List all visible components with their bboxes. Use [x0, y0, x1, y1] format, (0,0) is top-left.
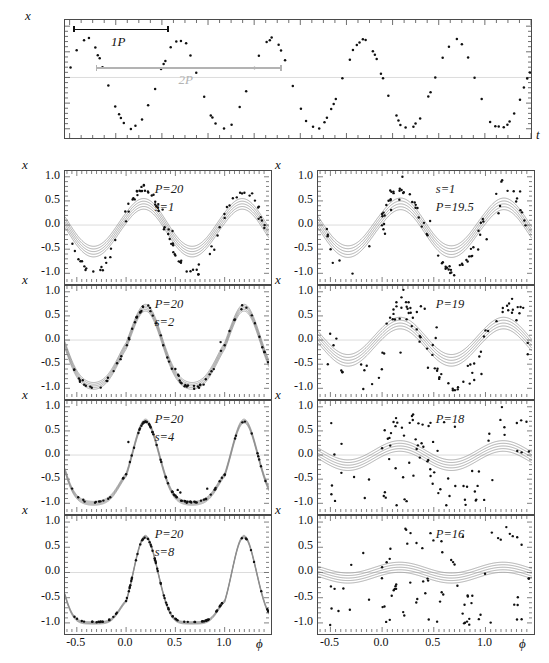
panel-ytick-label: 0.0: [22, 331, 60, 346]
panel-ylabel: x: [275, 157, 281, 173]
panel-ytick-label: 0.5: [275, 422, 313, 437]
panel-ytick-label: 0.5: [22, 307, 60, 322]
panel-plotbox: [317, 170, 535, 285]
panel-ylabel: x: [275, 502, 281, 518]
panel-xtick-label: 0.0: [105, 635, 145, 650]
panel-ytick-label: -1.0: [22, 379, 60, 394]
panel-xlabel: ϕ: [519, 636, 526, 652]
panel-plotbox: [317, 515, 535, 635]
panel-ylabel: x: [275, 272, 281, 288]
panel-ytick-label: 0.0: [275, 446, 313, 461]
panel-canvas: [65, 516, 269, 632]
panel-ytick-label: -0.5: [275, 240, 313, 255]
legend-bar-1P: [74, 29, 168, 30]
panel-ytick-label: 0.0: [275, 216, 313, 231]
panel-canvas: [318, 516, 532, 632]
legend-bar-cap: [96, 65, 97, 71]
legend-label-1P: 1P: [111, 34, 125, 50]
panel-ylabel: x: [22, 157, 28, 173]
panel-ytick-label: -0.5: [22, 470, 60, 485]
legend-bar-cap: [167, 26, 168, 32]
panel-annotation: P=19: [436, 297, 465, 312]
panel-ytick-label: 1.0: [275, 398, 313, 413]
panel-plotbox: [317, 285, 535, 400]
panel-ytick-label: 0.0: [22, 446, 60, 461]
panel-ylabel: x: [22, 272, 28, 288]
top-panel: x t 1P2P: [0, 0, 549, 150]
panel-ytick-label: 0.5: [22, 192, 60, 207]
panel-ytick-label: -1.0: [275, 494, 313, 509]
panel-xtick-label: 1.0: [204, 635, 244, 650]
panel-ytick-label: 0.5: [275, 192, 313, 207]
panel-ytick-label: -0.5: [22, 355, 60, 370]
panel-ytick-label: -0.5: [22, 240, 60, 255]
panel-ylabel: x: [22, 502, 28, 518]
panel-ytick-label: 1.0: [275, 513, 313, 528]
figure-root: x t 1P2P x1.00.50.0-0.5-1.0P=20s=1x1.00.…: [0, 0, 549, 663]
panel-ytick-label: 0.5: [22, 422, 60, 437]
panel-ytick-label: 1.0: [22, 398, 60, 413]
panel-xtick-label: 0.5: [413, 635, 453, 650]
panel-ylabel: x: [22, 387, 28, 403]
panel-ylabel: x: [275, 387, 281, 403]
panel-plotbox: [317, 400, 535, 515]
legend-label-2P: 2P: [179, 72, 193, 88]
panel-ytick-label: -0.5: [275, 355, 313, 370]
panel-plotbox: [64, 285, 272, 400]
panel-annotation: P=16: [436, 527, 465, 542]
panel-ytick-label: 1.0: [275, 168, 313, 183]
panel-annotation: P=19.5: [436, 200, 474, 215]
panel-annotation: s=1: [155, 200, 175, 215]
legend-bar-cap: [73, 26, 74, 32]
panel-canvas: [318, 171, 532, 282]
panel-xtick-label: 0.5: [154, 635, 194, 650]
panel-xtick-label: 0.0: [361, 635, 401, 650]
panel-plotbox: [64, 400, 272, 515]
panel-canvas: [65, 171, 269, 282]
panel-ytick-label: 1.0: [275, 283, 313, 298]
panel-canvas: [318, 286, 532, 397]
panel-ytick-label: -1.0: [275, 264, 313, 279]
panel-annotation: s=2: [155, 315, 175, 330]
panel-canvas: [318, 401, 532, 512]
panel-ytick-label: 1.0: [22, 168, 60, 183]
panel-ytick-label: 0.0: [275, 563, 313, 578]
panel-canvas: [65, 286, 269, 397]
top-panel-ylabel: x: [25, 8, 31, 24]
panel-annotation: P=20: [155, 297, 184, 312]
panel-xtick-label: -0.5: [309, 635, 349, 650]
panel-annotation: P=20: [155, 182, 184, 197]
panel-canvas: [65, 401, 269, 512]
panel-ytick-label: -0.5: [275, 589, 313, 604]
panel-xtick-label: 1.0: [464, 635, 504, 650]
panel-annotation: s=1: [436, 182, 456, 197]
panel-ytick-label: -1.0: [22, 494, 60, 509]
panel-ytick-label: -1.0: [22, 614, 60, 629]
panel-plotbox: [64, 515, 272, 635]
panel-ytick-label: 0.0: [275, 331, 313, 346]
legend-bar-2P: [96, 67, 281, 68]
panel-annotation: s=8: [155, 545, 175, 560]
panel-ytick-label: 0.5: [275, 538, 313, 553]
panel-xtick-label: -0.5: [56, 635, 96, 650]
panel-ytick-label: 0.0: [22, 216, 60, 231]
panel-ytick-label: 0.0: [22, 563, 60, 578]
panel-ytick-label: -0.5: [22, 589, 60, 604]
panel-annotation: P=18: [436, 412, 465, 427]
top-panel-xlabel: t: [536, 127, 540, 143]
panel-ytick-label: -1.0: [275, 379, 313, 394]
panel-ytick-label: -1.0: [275, 614, 313, 629]
panel-annotation: P=20: [155, 527, 184, 542]
panel-annotation: P=20: [155, 412, 184, 427]
top-panel-plotbox: [64, 19, 532, 139]
panel-ytick-label: 1.0: [22, 283, 60, 298]
panel-annotation: s=4: [155, 430, 175, 445]
panel-ytick-label: 0.5: [22, 538, 60, 553]
panel-ytick-label: -1.0: [22, 264, 60, 279]
legend-bar-cap: [280, 65, 281, 71]
panel-ytick-label: 0.5: [275, 307, 313, 322]
panel-plotbox: [64, 170, 272, 285]
panel-xlabel: ϕ: [256, 636, 263, 652]
panel-ytick-label: -0.5: [275, 470, 313, 485]
top-panel-canvas: [65, 20, 531, 138]
